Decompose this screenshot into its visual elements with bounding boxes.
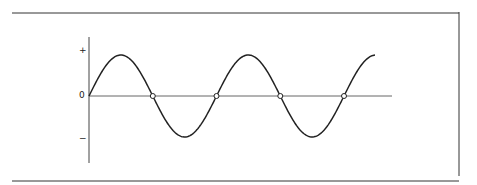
waveform-diagram [0, 0, 477, 185]
minus-label: − [79, 133, 87, 143]
zero-crossing-marker [214, 94, 219, 99]
zero-crossing-marker [150, 94, 155, 99]
zero-label: 0 [79, 90, 85, 100]
zero-crossing-marker [342, 94, 347, 99]
zero-crossing-marker [278, 94, 283, 99]
plus-label: + [79, 45, 87, 55]
